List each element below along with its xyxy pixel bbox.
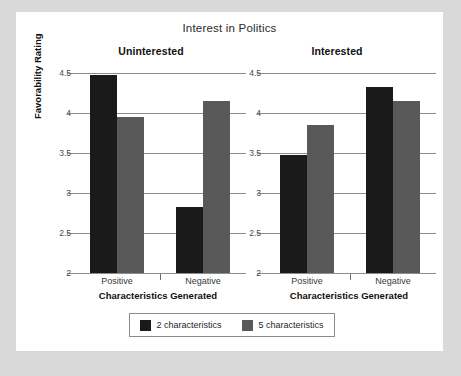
y-tick-label: 2 xyxy=(66,268,71,278)
x-tick-label-negative: Negative xyxy=(375,276,411,286)
x-axis-title-right: Characteristics Generated xyxy=(254,290,444,301)
panel-title-interested: Interested xyxy=(242,45,432,57)
bar xyxy=(90,75,117,273)
panel-title-uninterested: Uninterested xyxy=(56,45,246,57)
bar xyxy=(203,101,230,273)
y-tick-label: 4 xyxy=(256,108,261,118)
y-tick-label: 4 xyxy=(66,108,71,118)
legend-swatch-dark xyxy=(140,320,151,331)
y-tick-label: 3 xyxy=(256,188,261,198)
bar xyxy=(393,101,420,273)
figure-card: Interest in Politics Uninterested Intere… xyxy=(16,12,443,351)
plot-panel-uninterested: 22.533.544.5PositiveNegative xyxy=(74,65,246,273)
y-axis-title: Favorability Rating xyxy=(32,33,43,119)
x-tick-label-positive: Positive xyxy=(291,276,323,286)
x-tick-label-positive: Positive xyxy=(101,276,133,286)
y-tick-label: 3 xyxy=(66,188,71,198)
legend-entry-2-characteristics: 2 characteristics xyxy=(140,320,221,331)
bar xyxy=(307,125,334,273)
y-tick-label: 3.5 xyxy=(59,148,71,158)
bar xyxy=(117,117,144,273)
x-axis-title-left: Characteristics Generated xyxy=(63,290,253,301)
chart-title: Interest in Politics xyxy=(16,22,443,34)
chart-legend: 2 characteristics 5 characteristics xyxy=(129,313,335,337)
y-tick-label: 2.5 xyxy=(59,228,71,238)
legend-swatch-gray xyxy=(242,320,253,331)
plot-area-uninterested: 22.533.544.5PositiveNegative xyxy=(74,65,246,273)
bar xyxy=(366,87,393,273)
plot-area-interested: 22.533.544.5PositiveNegative xyxy=(264,65,436,273)
plot-panel-interested: 22.533.544.5PositiveNegative xyxy=(264,65,436,273)
y-tick-label: 4.5 xyxy=(249,68,261,78)
y-tick-label: 2 xyxy=(256,268,261,278)
legend-label-5-characteristics: 5 characteristics xyxy=(258,320,323,330)
gridline-4-5 xyxy=(264,73,436,74)
bar xyxy=(280,155,307,273)
x-axis-group-separator xyxy=(350,274,351,280)
legend-label-2-characteristics: 2 characteristics xyxy=(156,320,221,330)
x-tick-label-negative: Negative xyxy=(185,276,221,286)
legend-entry-5-characteristics: 5 characteristics xyxy=(242,320,323,331)
bar xyxy=(176,207,203,273)
y-tick-label: 4.5 xyxy=(59,68,71,78)
y-tick-label: 2.5 xyxy=(249,228,261,238)
y-tick-label: 3.5 xyxy=(249,148,261,158)
x-axis-group-separator xyxy=(160,274,161,280)
